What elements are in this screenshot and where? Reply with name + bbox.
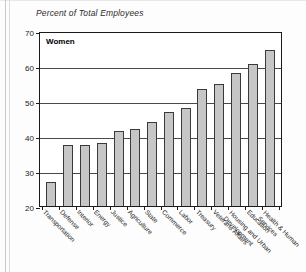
bar [114,131,124,206]
bar-slot [144,33,161,206]
y-axis-tick-label: 70 [25,29,34,38]
bar [130,129,140,206]
y-axis-tick-label: 40 [25,134,34,143]
page-gutter-line-outer [5,0,6,272]
series-label-women: Women [46,37,75,46]
bar-slot [261,33,278,206]
plot-inner: Women 203040506070 [40,33,281,206]
bar-slot [160,33,177,206]
bar [231,73,241,206]
bar [80,145,90,206]
bar [197,89,207,206]
bar [63,145,73,206]
bar [248,64,258,206]
y-axis-tick-label: 30 [25,169,34,178]
bar [46,182,56,207]
bar-slot [60,33,77,206]
bar-slot [110,33,127,206]
bar [265,50,275,206]
plot-area: Women 203040506070 [39,32,282,207]
y-axis-tick-label: 60 [25,64,34,73]
bar-slot [211,33,228,206]
bar [97,143,107,206]
bar-slot [93,33,110,206]
bar-slot [77,33,94,206]
bar-slot [244,33,261,206]
bar-series-women [40,33,281,206]
page-gutter-line-inner [9,0,10,272]
bar-slot [127,33,144,206]
y-axis-tick-label: 20 [25,204,34,213]
bar [214,84,224,207]
y-axis-tick-label: 50 [25,99,34,108]
bar-slot [177,33,194,206]
bar-slot [228,33,245,206]
x-axis-category-label: Justice [110,209,129,228]
page-edge-line [0,0,306,1]
bar [164,112,174,207]
x-axis-labels: TransportationDefenseInteriorEnergyJusti… [39,209,282,271]
bar-slot [194,33,211,206]
bar [147,122,157,206]
bar-slot [43,33,60,206]
chart-title: Percent of Total Employees [36,8,144,18]
chart-page: Percent of Total Employees Women 2030405… [0,0,306,272]
bar [181,108,191,206]
